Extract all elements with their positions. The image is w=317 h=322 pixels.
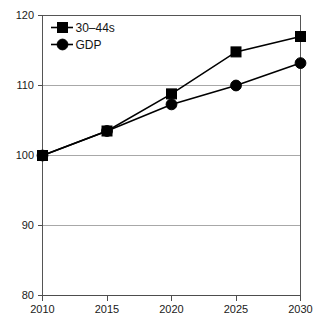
data-point xyxy=(296,32,306,42)
x-axis-label-2025: 2025 xyxy=(224,303,248,315)
data-point xyxy=(295,58,306,69)
data-point xyxy=(167,89,177,99)
line-chart: 120 110 100 90 80 2010 2015 2020 2025 20… xyxy=(0,0,317,322)
legend-label-gdp: GDP xyxy=(76,38,102,52)
y-axis-label-90: 90 xyxy=(22,219,34,231)
y-axis-label-110: 110 xyxy=(16,79,34,91)
data-point xyxy=(231,80,242,91)
x-axis-label-2015: 2015 xyxy=(95,303,119,315)
legend-marker-square xyxy=(58,23,68,33)
y-axis-label-120: 120 xyxy=(16,9,34,21)
x-axis-label-2030: 2030 xyxy=(288,303,312,315)
data-point xyxy=(37,150,48,161)
y-axis-label-100: 100 xyxy=(16,149,34,161)
legend-item-30-44s: 30–44s xyxy=(51,21,115,35)
legend-label-30-44s: 30–44s xyxy=(76,21,115,35)
y-axis-label-80: 80 xyxy=(22,289,34,301)
x-axis-label-2010: 2010 xyxy=(30,303,54,315)
data-point xyxy=(231,47,241,57)
chart-container: 120 110 100 90 80 2010 2015 2020 2025 20… xyxy=(0,0,317,322)
data-point xyxy=(102,126,113,137)
data-point xyxy=(166,99,177,110)
legend-marker-circle xyxy=(57,39,68,50)
x-axis-label-2020: 2020 xyxy=(159,303,183,315)
